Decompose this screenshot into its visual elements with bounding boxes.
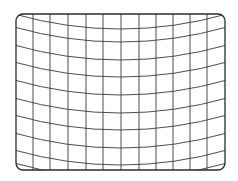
curved-grid-line [14, 150, 227, 165]
rounded-frame [16, 14, 225, 170]
curved-horizontal-grid-lines [14, 14, 227, 178]
grid-svg [0, 0, 238, 181]
curved-grid-line [14, 62, 227, 77]
curved-grid-line [14, 14, 227, 29]
curved-grid-line [14, 45, 227, 60]
curved-grid-line [14, 133, 227, 148]
curved-grid-line [14, 115, 227, 130]
distortion-grid-diagram [0, 0, 238, 181]
curved-grid-line [14, 80, 227, 95]
curved-grid-line [14, 98, 227, 113]
